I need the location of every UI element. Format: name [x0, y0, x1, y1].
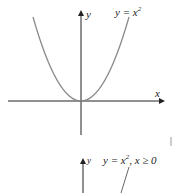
top-curve-label: y = x2: [115, 6, 141, 18]
top-x-axis-label: x: [155, 88, 160, 99]
half-parabola-curve: [121, 167, 129, 193]
top-y-axis-label: y: [86, 9, 91, 20]
bottom-y-axis-label: y: [87, 156, 91, 165]
bottom-graph: [83, 161, 129, 193]
top-curve-label-exp: 2: [138, 5, 142, 13]
top-graph: [8, 13, 162, 135]
top-curve-label-text: y = x: [115, 6, 138, 18]
bottom-curve-label-suffix: , x ≥ 0: [129, 154, 156, 166]
bottom-curve-label-text: y = x: [103, 154, 126, 166]
bottom-curve-label: y = x2, x ≥ 0: [103, 154, 157, 166]
